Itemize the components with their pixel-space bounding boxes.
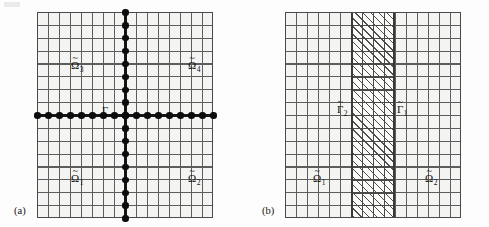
label-gamma-1: ~ Γ 1 <box>397 100 407 116</box>
interface-dot <box>166 112 172 118</box>
interface-dot <box>122 215 128 221</box>
interface-dot <box>122 112 128 118</box>
label-omega-2: ~ Ω 2 <box>188 169 200 185</box>
label-omega-b-1-glyph: ~ Ω <box>313 173 321 184</box>
omega-4-subscript: 4 <box>197 65 201 74</box>
label-gamma-2-glyph: ~ Γ <box>337 104 343 115</box>
tilde-accent: ~ <box>426 166 431 176</box>
label-omega-3-glyph: ~ Ω <box>71 60 79 71</box>
label-omega-b-2-glyph: ~ Ω <box>425 173 433 184</box>
interface-dot <box>155 112 161 118</box>
interface-dot <box>34 112 40 118</box>
label-omega-3: ~ Ω 3 <box>71 56 83 72</box>
omega-1-subscript: 1 <box>80 178 84 187</box>
interface-dot <box>122 164 128 170</box>
label-omega-b-1: ~ Ω 1 <box>313 169 325 185</box>
interface-dot <box>122 22 128 28</box>
label-gamma: Γ <box>102 101 108 117</box>
panel-a: ~ Ω 3 ~ Ω 4 Γ ~ Ω 1 ~ Ω 2 <box>37 12 213 218</box>
interface-dot <box>144 112 150 118</box>
interface-dot <box>133 112 139 118</box>
interface-dot <box>122 74 128 80</box>
gamma-symbol: Γ <box>102 106 108 117</box>
omega-b-2-subscript: 2 <box>434 178 438 187</box>
interface-dot <box>45 112 51 118</box>
tilde-accent: ~ <box>189 53 194 63</box>
interface-dot <box>122 151 128 157</box>
label-gamma-2: ~ Γ 2 <box>337 100 347 116</box>
panel-a-caption: (a) <box>14 205 26 216</box>
interface-dot <box>89 112 95 118</box>
interface-dot <box>122 99 128 105</box>
label-omega-4: ~ Ω 4 <box>188 56 200 72</box>
omega-2-subscript: 2 <box>197 178 201 187</box>
tilde-accent: ~ <box>337 97 342 107</box>
interface-dot <box>177 112 183 118</box>
interface-dot <box>122 48 128 54</box>
tilde-accent: ~ <box>72 166 77 176</box>
interface-dot <box>122 177 128 183</box>
label-gamma-1-glyph: ~ Γ <box>397 104 403 115</box>
paper-speckle <box>4 2 20 7</box>
tilde-accent: ~ <box>189 166 194 176</box>
interface-dot <box>188 112 194 118</box>
interface-dot <box>56 112 62 118</box>
tilde-accent: ~ <box>397 97 402 107</box>
interface-dot <box>122 125 128 131</box>
label-omega-b-2: ~ Ω 2 <box>425 169 437 185</box>
interface-dot <box>111 112 117 118</box>
omega-b-1-subscript: 1 <box>322 178 326 187</box>
tilde-accent: ~ <box>314 166 319 176</box>
panel-b: ~ Γ 2 ~ Γ 1 ~ Ω 1 ~ Ω 2 <box>285 12 461 218</box>
label-omega-1: ~ Ω 1 <box>71 169 83 185</box>
interface-dot <box>67 112 73 118</box>
panel-b-frame <box>285 12 461 218</box>
gamma-1-subscript: 1 <box>404 109 408 118</box>
label-omega-1-glyph: ~ Ω <box>71 173 79 184</box>
interface-dot <box>78 112 84 118</box>
omega-3-subscript: 3 <box>80 65 84 74</box>
interface-dot <box>122 9 128 15</box>
panel-b-caption: (b) <box>262 205 274 216</box>
interface-dot <box>122 87 128 93</box>
interface-dot <box>199 112 205 118</box>
gamma-2-subscript: 2 <box>344 109 348 118</box>
interface-dot <box>122 202 128 208</box>
label-omega-4-glyph: ~ Ω <box>188 60 196 71</box>
interface-dot <box>122 190 128 196</box>
interface-dot <box>122 61 128 67</box>
label-omega-2-glyph: ~ Ω <box>188 173 196 184</box>
figure-domain-decomposition: ~ Ω 3 ~ Ω 4 Γ ~ Ω 1 ~ Ω 2 <box>0 0 489 227</box>
interface-dot <box>210 112 216 118</box>
tilde-accent: ~ <box>72 53 77 63</box>
